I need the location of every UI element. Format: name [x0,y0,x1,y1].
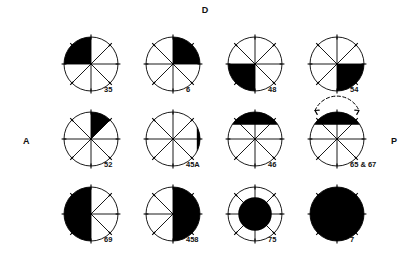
diagram-cell: 6 [142,33,228,108]
clock-disc [60,183,122,245]
clock-disc [224,108,286,170]
clock-disc [224,33,286,95]
cell-label: 65 & 67 [350,161,376,169]
clock-disc [60,108,122,170]
cell-label: 46 [268,161,276,169]
clock-disc [306,183,368,245]
clock-disc [60,33,122,95]
cell-label: 35 [104,86,112,94]
cell-label: 7 [350,236,354,244]
cell-label: 52 [104,161,112,169]
cell-label: 54 [350,86,358,94]
figure-root: D A P 35 6 48 54 52 45A [0,0,416,268]
diagram-cell: 46 [224,108,310,183]
diagram-cell: 52 [60,108,146,183]
diagram-cell: 69 [60,183,146,258]
cell-label: 45A [186,161,200,169]
clock-disc [142,33,204,95]
diagram-cell: 45A [142,108,228,183]
diagram-cell: 35 [60,33,146,108]
cell-label: 6 [186,86,190,94]
clock-disc [224,183,286,245]
diagram-cell: 65 & 67 [306,108,392,183]
cell-label: 69 [104,236,112,244]
cell-label: 458 [186,236,199,244]
cell-label: 48 [268,86,276,94]
diagram-cell: 7 [306,183,392,258]
diagram-grid: 35 6 48 54 52 45A 46 65 & 67 [0,0,416,268]
cell-label: 75 [268,236,276,244]
clock-disc [306,33,368,95]
diagram-cell: 75 [224,183,310,258]
diagram-cell: 458 [142,183,228,258]
diagram-cell: 54 [306,33,392,108]
diagram-cell: 48 [224,33,310,108]
